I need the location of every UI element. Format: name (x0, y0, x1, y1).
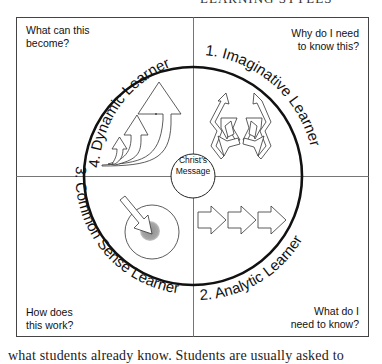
center-label-line: Christ's (170, 155, 216, 166)
question-line: to know this? (291, 40, 359, 53)
question-bottom-left: How does this work? (26, 306, 73, 332)
question-line: this work? (26, 319, 73, 332)
question-top-right: Why do I need to know this? (291, 27, 359, 53)
question-line: What can this (26, 24, 90, 37)
question-line: What do I (291, 305, 359, 318)
center-label-line: Message (170, 166, 216, 177)
question-top-left: What can this become? (26, 24, 90, 50)
question-bottom-right: What do I need to know? (291, 305, 359, 331)
body-text-fragment: what students already know. Students are… (8, 348, 344, 364)
question-line: How does (26, 306, 73, 319)
question-line: Why do I need (291, 27, 359, 40)
question-line: become? (26, 37, 90, 50)
target-arrow-icon (120, 196, 179, 259)
center-label: Christ's Message (170, 155, 216, 177)
sequential-arrows-icon (198, 206, 286, 234)
scattered-arrows-icon (210, 93, 271, 159)
question-line: need to know? (291, 318, 359, 331)
